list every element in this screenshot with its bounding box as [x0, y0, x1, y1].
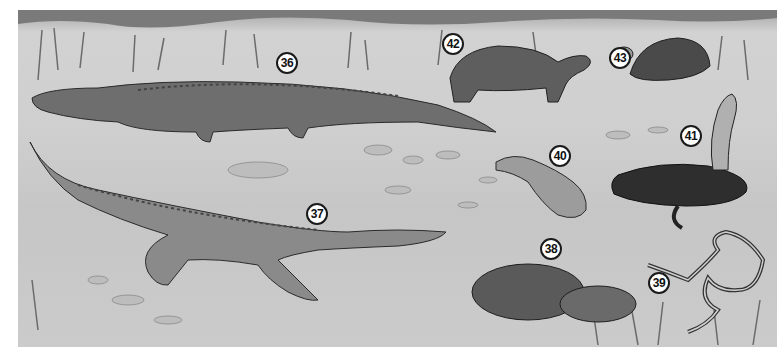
- label-41-cobra: 41: [680, 125, 702, 147]
- label-36-alligator: 36: [276, 52, 298, 74]
- label-37-crocodile: 37: [306, 203, 328, 225]
- label-38-rattlesnake: 38: [540, 238, 562, 260]
- scene-artwork: [18, 10, 777, 347]
- label-40-lizard: 40: [549, 145, 571, 167]
- label-39-garter-snake: 39: [648, 272, 670, 294]
- reptile-illustration: 36 37 38 39 40 41 42 43: [18, 10, 777, 347]
- label-43-box-turtle: 43: [609, 47, 631, 69]
- label-42-tortoise: 42: [442, 33, 464, 55]
